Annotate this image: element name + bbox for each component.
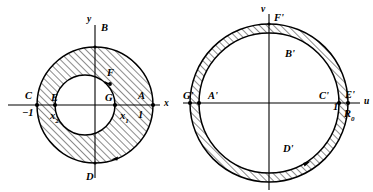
point-label-D-prime: D' xyxy=(282,143,294,154)
right-point-F-prime xyxy=(267,22,270,25)
radius-label-R0-subscript: 0 xyxy=(351,115,355,123)
right-point-E-prime xyxy=(346,101,350,105)
figure-root: BC−1Ex2GAx11DFxy F'G'A'C'1E'R0B'D'uv xyxy=(0,0,373,192)
point-label-G-prime: G' xyxy=(183,90,194,101)
right-point-A-prime xyxy=(197,101,201,105)
point-label-E-prime: E' xyxy=(344,89,355,100)
point-label-C-prime: C' xyxy=(319,90,329,101)
right-panel: F'G'A'C'1E'R0B'D'uv xyxy=(0,0,373,192)
axis-label-u: u xyxy=(364,96,369,106)
point-label-F-prime: F' xyxy=(273,12,284,23)
point-label-B-prime: B' xyxy=(284,48,295,59)
point-label-A-prime: A' xyxy=(207,90,218,101)
complex-plane-mapping-figure: BC−1Ex2GAx11DFxy F'G'A'C'1E'R0B'D'uv xyxy=(0,0,373,192)
right-point-G-prime xyxy=(188,101,192,105)
tick-label-one-right: 1 xyxy=(333,101,338,112)
